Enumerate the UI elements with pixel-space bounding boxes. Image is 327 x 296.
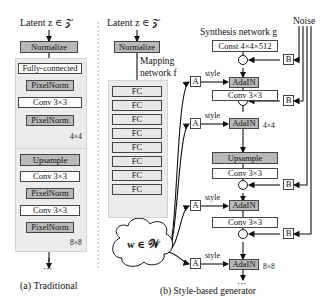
style-label-2: style bbox=[205, 112, 220, 120]
synthesis-label: Synthesis network g bbox=[200, 28, 277, 38]
adain-4: AdaIN bbox=[229, 259, 259, 270]
traditional-conv-1: Conv 3×3 bbox=[18, 97, 82, 108]
fc-layer-1: FC bbox=[112, 86, 162, 97]
adain-3: AdaIN bbox=[229, 200, 259, 211]
synthesis-conv-3: Conv 3×3 bbox=[212, 217, 278, 228]
synthesis-conv-1: Conv 3×3 bbox=[212, 90, 278, 101]
traditional-normalize: Normalize bbox=[20, 41, 78, 53]
fc-layer-5: FC bbox=[112, 142, 162, 153]
synthesis-upsample: Upsample bbox=[212, 152, 278, 164]
affine-a-3: A bbox=[190, 200, 201, 211]
fc-layer-4: FC bbox=[112, 128, 162, 139]
noise-b-2: B bbox=[283, 95, 294, 106]
traditional-res-8x8: 8×8 bbox=[70, 238, 82, 247]
traditional-res-4x4: 4×4 bbox=[70, 132, 82, 141]
traditional-pixelnorm-3: PixelNorm bbox=[26, 188, 74, 199]
const-input: Const 4×4×512 bbox=[212, 40, 278, 52]
fc-layer-7: FC bbox=[112, 170, 162, 181]
fc-layer-8: FC bbox=[112, 184, 162, 195]
style-normalize: Normalize bbox=[114, 41, 160, 53]
style-caption: (b) Style-based generator bbox=[160, 286, 256, 296]
adain-2: AdaIN bbox=[229, 118, 259, 129]
mapping-label-line1: Mapping bbox=[140, 57, 174, 67]
synthesis-res-8x8: 8×8 bbox=[263, 262, 275, 271]
synthesis-res-4x4: 4×4 bbox=[263, 121, 275, 130]
noise-b-1: B bbox=[283, 54, 294, 65]
affine-a-1: A bbox=[190, 76, 201, 87]
traditional-pixelnorm-4: PixelNorm bbox=[26, 222, 74, 233]
fc-layer-6: FC bbox=[112, 156, 162, 167]
style-label-4: style bbox=[205, 252, 220, 260]
noise-b-3: B bbox=[283, 179, 294, 190]
traditional-latent-label: Latent z ∈ 𝒵 bbox=[20, 18, 73, 28]
fc-layer-3: FC bbox=[112, 114, 162, 125]
w-label: w ∈ 𝒲 bbox=[127, 240, 160, 251]
style-label-1: style bbox=[205, 70, 220, 78]
adain-1: AdaIN bbox=[229, 77, 259, 88]
mapping-label-line2: network f bbox=[140, 69, 177, 79]
style-label-3: style bbox=[205, 194, 220, 202]
affine-a-4: A bbox=[190, 258, 201, 269]
noise-b-4: B bbox=[283, 228, 294, 239]
traditional-ellipsis: ··· bbox=[43, 265, 53, 275]
traditional-fully-connected: Fully-connected bbox=[18, 63, 82, 74]
traditional-conv-3: Conv 3×3 bbox=[20, 205, 80, 216]
traditional-conv-2: Conv 3×3 bbox=[20, 171, 80, 182]
traditional-upsample: Upsample bbox=[20, 154, 80, 166]
noise-label: Noise bbox=[293, 17, 315, 27]
style-latent-label: Latent z ∈ 𝒵 bbox=[107, 18, 160, 28]
fc-layer-2: FC bbox=[112, 100, 162, 111]
synthesis-conv-2: Conv 3×3 bbox=[212, 168, 278, 179]
affine-a-2: A bbox=[190, 118, 201, 129]
traditional-caption: (a) Traditional bbox=[20, 280, 78, 291]
traditional-pixelnorm-1: PixelNorm bbox=[26, 80, 74, 91]
traditional-pixelnorm-2: PixelNorm bbox=[26, 115, 74, 126]
